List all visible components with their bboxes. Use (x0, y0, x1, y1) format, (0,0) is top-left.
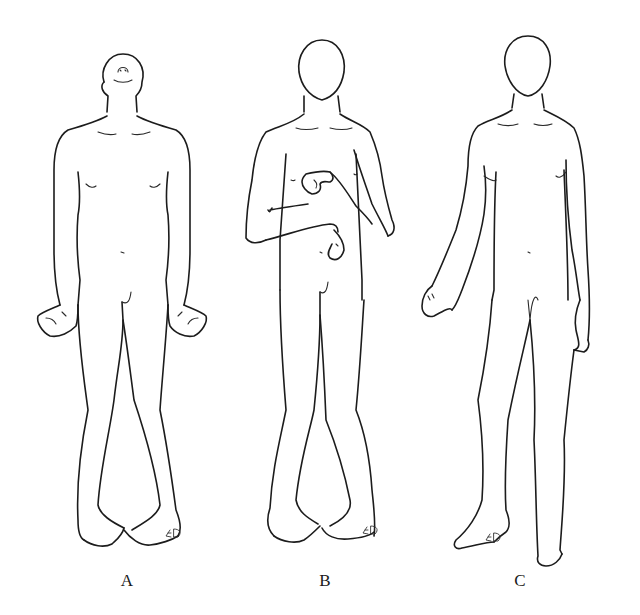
figure-canvas (0, 0, 640, 615)
figure-b (246, 40, 394, 542)
figure-label-b: B (319, 571, 330, 591)
figure-a (38, 54, 207, 546)
figure-label-c: C (514, 571, 525, 591)
figure-c (422, 36, 590, 566)
figure-label-a: A (121, 571, 133, 591)
